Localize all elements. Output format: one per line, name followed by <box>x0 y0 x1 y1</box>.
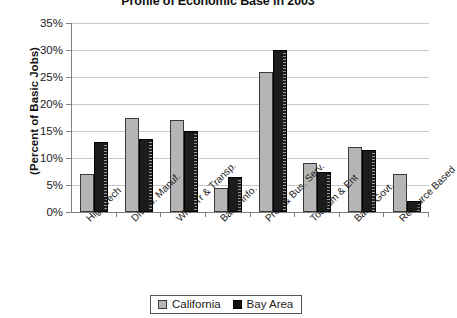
x-axis-tick <box>205 212 206 217</box>
y-axis-tick-label: 15% <box>40 125 63 137</box>
bar-california <box>259 72 273 212</box>
y-axis-tick <box>66 185 71 186</box>
legend-label: Bay Area <box>247 298 294 310</box>
legend-swatch-california <box>158 300 167 309</box>
y-axis-tick-label: 25% <box>40 71 63 83</box>
y-axis-tick <box>66 131 71 132</box>
bar-group <box>72 23 117 212</box>
legend-label: California <box>172 298 221 310</box>
x-axis-tick <box>250 212 251 217</box>
x-axis-tick <box>428 212 429 217</box>
bar-bay-area <box>273 50 287 212</box>
y-axis-tick <box>66 104 71 105</box>
x-axis-tick <box>383 212 384 217</box>
y-axis-tick-label: 10% <box>40 152 63 164</box>
y-axis-tick <box>66 50 71 51</box>
x-axis-tick <box>339 212 340 217</box>
y-axis-tick <box>66 77 71 78</box>
bar-california <box>125 118 139 213</box>
x-axis-tick <box>160 212 161 217</box>
legend-item: California <box>158 298 221 310</box>
bar-california <box>393 174 407 212</box>
bar-california <box>170 120 184 212</box>
y-axis-tick <box>66 212 71 213</box>
bar-group <box>251 23 296 212</box>
y-axis-tick-label: 35% <box>40 17 63 29</box>
y-axis-tick-label: 0% <box>46 206 63 218</box>
legend-swatch-bay-area <box>233 300 242 309</box>
x-axis-tick <box>294 212 295 217</box>
x-axis-tick <box>116 212 117 217</box>
y-axis-tick <box>66 23 71 24</box>
y-axis-tick-label: 30% <box>40 44 63 56</box>
y-axis-tick-label: 20% <box>40 98 63 110</box>
chart-title: Profile of Economic Base in 2003 <box>0 0 436 8</box>
bar-group <box>117 23 162 212</box>
chart-legend: CaliforniaBay Area <box>150 295 302 314</box>
y-axis-title: (Percent of Basic Jobs) <box>28 16 40 206</box>
legend-item: Bay Area <box>233 298 294 310</box>
y-axis-tick <box>66 158 71 159</box>
y-axis-tick-label: 5% <box>46 179 63 191</box>
